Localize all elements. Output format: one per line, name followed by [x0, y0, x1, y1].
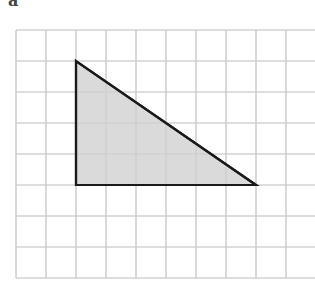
grid-figure	[0, 0, 315, 284]
grid-lines-overlay	[16, 30, 315, 278]
